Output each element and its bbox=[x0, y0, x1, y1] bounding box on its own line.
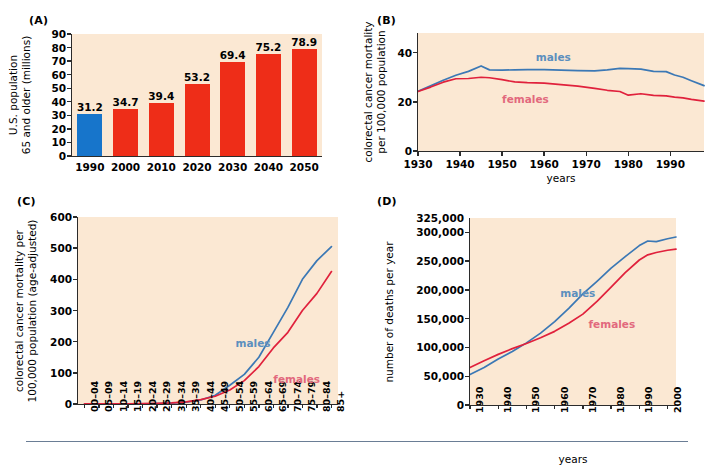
panel-d-x-tick bbox=[639, 406, 640, 409]
panel-c-lines bbox=[0, 185, 357, 454]
panel-a-y-axis bbox=[71, 34, 72, 157]
panel-b-x-tick bbox=[417, 152, 418, 156]
panel-b-x-tick-label: 1990 bbox=[648, 158, 692, 170]
panel-a-y-axis-label: U.S. population65 and older (millions) bbox=[7, 36, 33, 155]
panel-c-x-tick bbox=[331, 405, 332, 408]
panel-d-x-tick bbox=[526, 406, 527, 409]
panel-a-y-tick-label: 0 bbox=[40, 150, 66, 162]
panel-b-x-tick bbox=[501, 152, 502, 156]
panel-d-x-tick-label: 1970 bbox=[587, 387, 598, 413]
panel-b-series-label-females: females bbox=[502, 93, 549, 105]
panel-b-x-tick bbox=[543, 152, 544, 156]
panel-c-x-tick bbox=[98, 405, 99, 408]
panel-a-bar bbox=[256, 54, 281, 156]
panel-d-x-tick-label: 2000 bbox=[672, 387, 683, 413]
panel-d-x-tick-label: 1980 bbox=[615, 387, 626, 413]
panel-b-x-tick bbox=[628, 152, 629, 156]
panel-a-bar bbox=[220, 62, 245, 156]
panel-d-series-label-males: males bbox=[560, 287, 595, 299]
panel-a-bar bbox=[77, 114, 102, 156]
panel-c-x-tick bbox=[287, 405, 288, 408]
panel-c-x-tick bbox=[215, 405, 216, 408]
panel-d-x-axis-title: years bbox=[533, 453, 613, 465]
panel-d-x-tick bbox=[498, 406, 499, 409]
panel-d-x-tick bbox=[667, 406, 668, 409]
panel-b-x-tick-label: 1950 bbox=[480, 158, 524, 170]
panel-a-y-tick-label: 50 bbox=[40, 82, 66, 94]
panel-c-x-tick bbox=[316, 405, 317, 408]
panel-b-x-axis bbox=[417, 151, 704, 152]
panel-a-y-tick-label: 40 bbox=[40, 96, 66, 108]
panel-c-x-tick bbox=[84, 405, 85, 408]
panel-a-y-tick-label: 90 bbox=[40, 28, 66, 40]
panel-c-x-tick bbox=[200, 405, 201, 408]
panel-d-x-axis bbox=[469, 405, 676, 406]
panel-d-x-tick-label: 1990 bbox=[643, 387, 654, 413]
panel-d-x-tick bbox=[610, 406, 611, 409]
panel-b-x-tick-label: 1930 bbox=[396, 158, 440, 170]
panel-b-x-tick bbox=[670, 152, 671, 156]
panel-a-y-tick-label: 80 bbox=[40, 42, 66, 54]
panel-d: (D) number of deaths per year 050,000100… bbox=[357, 185, 714, 454]
panel-c-series-label-males: males bbox=[236, 337, 271, 349]
panel-b: (B) colorectal cancer mortalityper 100,0… bbox=[357, 0, 714, 185]
panel-d-x-tick-label: 1960 bbox=[559, 387, 570, 413]
panel-a-x-tick-label: 2050 bbox=[282, 161, 326, 173]
panel-d-y-axis bbox=[469, 218, 470, 406]
panel-c: (C) colorectal cancer mortality per100,0… bbox=[0, 185, 357, 454]
panel-c-x-tick bbox=[142, 405, 143, 408]
panel-a-y-tick-label: 10 bbox=[40, 136, 66, 148]
panel-a-bar-value: 53.2 bbox=[175, 71, 219, 83]
panel-b-x-tick bbox=[586, 152, 587, 156]
panel-c-x-tick bbox=[244, 405, 245, 408]
panel-b-series-label-males: males bbox=[536, 51, 571, 63]
panel-c-x-tick bbox=[113, 405, 114, 408]
panel-c-series-label-females: females bbox=[273, 373, 320, 385]
panel-b-x-axis-title: years bbox=[521, 172, 601, 184]
panel-b-x-tick bbox=[459, 152, 460, 156]
panel-c-x-tick bbox=[186, 405, 187, 408]
panel-c-x-tick bbox=[127, 405, 128, 408]
panel-a-bar bbox=[185, 84, 210, 156]
panel-d-x-tick bbox=[582, 406, 583, 409]
panel-c-y-axis bbox=[77, 217, 78, 405]
panel-a-bar-value: 39.4 bbox=[139, 90, 183, 102]
panel-a-bar-value: 78.9 bbox=[282, 36, 326, 48]
panel-d-x-tick-label: 1940 bbox=[502, 387, 513, 413]
panel-c-x-tick bbox=[258, 405, 259, 408]
page-divider bbox=[26, 441, 688, 442]
panel-a-label: (A) bbox=[29, 14, 48, 27]
panel-c-x-tick bbox=[229, 405, 230, 408]
panel-c-x-tick bbox=[302, 405, 303, 408]
panel-a: (A) U.S. population65 and older (million… bbox=[0, 0, 357, 185]
panel-a-y-tick-label: 70 bbox=[40, 55, 66, 67]
panel-a-y-tick-label: 60 bbox=[40, 69, 66, 81]
panel-b-x-tick-label: 1970 bbox=[564, 158, 608, 170]
panel-c-x-tick-label: 85+ bbox=[335, 391, 346, 412]
panel-a-bar bbox=[113, 109, 138, 156]
panel-a-y-tick-label: 20 bbox=[40, 123, 66, 135]
panel-d-x-tick bbox=[554, 406, 555, 409]
panel-c-x-tick bbox=[156, 405, 157, 408]
panel-a-bar bbox=[149, 103, 174, 156]
panel-a-y-tick-label: 30 bbox=[40, 109, 66, 121]
panel-c-x-axis bbox=[77, 404, 338, 405]
panel-b-x-tick-label: 1960 bbox=[522, 158, 566, 170]
panel-c-x-tick bbox=[171, 405, 172, 408]
panel-c-x-tick bbox=[273, 405, 274, 408]
panel-d-lines bbox=[357, 185, 714, 454]
panel-b-x-tick-label: 1980 bbox=[606, 158, 650, 170]
panel-a-x-axis bbox=[71, 156, 322, 157]
panel-d-x-tick-label: 1950 bbox=[530, 387, 541, 413]
panel-b-y-axis bbox=[417, 33, 418, 152]
panel-d-x-tick bbox=[469, 406, 470, 409]
panel-a-bar bbox=[292, 49, 317, 156]
panel-d-series-label-females: females bbox=[589, 318, 636, 330]
panel-b-x-tick-label: 1940 bbox=[438, 158, 482, 170]
panel-d-x-tick-label: 1930 bbox=[474, 387, 485, 413]
